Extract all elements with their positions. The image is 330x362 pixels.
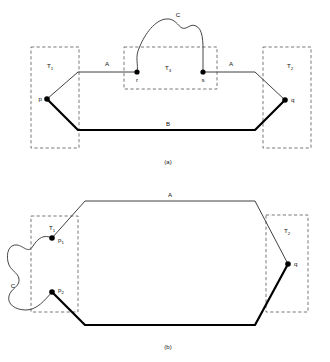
arc-a-right-segment — [203, 72, 285, 100]
node-r-panel-a — [134, 69, 139, 74]
node-q-panel-b — [285, 261, 291, 267]
label-box-t3-panel-a: T3 — [165, 64, 172, 73]
label-box-t1-panel-b: T1 — [49, 224, 56, 233]
figure-container: T1 T3 T2 A A B C p r s q — [0, 0, 330, 362]
label-arc-a-right-panel-a: A — [229, 60, 234, 67]
node-p-panel-a — [44, 96, 50, 102]
label-box-t2-panel-b: T2 — [284, 227, 291, 236]
label-curve-c-panel-a: C — [176, 11, 181, 18]
label-arc-a-panel-b: A — [168, 191, 173, 198]
panel-b: T1 T2 A C p1 p2 q (b) — [7, 191, 308, 350]
label-node-q-panel-b: q — [294, 260, 298, 267]
panel-a: T1 T3 T2 A A B C p r s q — [31, 11, 311, 165]
label-curve-c-panel-b: C — [11, 282, 16, 289]
caption-panel-a: (a) — [164, 159, 171, 165]
label-node-p2-panel-b: p2 — [58, 286, 64, 295]
label-node-r-panel-a: r — [136, 76, 138, 83]
arc-a-panel-b — [52, 201, 288, 264]
label-arc-b-panel-a: B — [166, 120, 170, 127]
curve-c-panel-b — [7, 236, 52, 310]
caption-panel-b: (b) — [164, 344, 171, 350]
label-node-p1-panel-b: p1 — [58, 236, 64, 245]
label-node-s-panel-a: s — [201, 76, 204, 83]
topology-diagram: T1 T3 T2 A A B C p r s q — [0, 0, 330, 362]
node-q-panel-a — [282, 97, 288, 103]
arc-b-panel-b — [52, 264, 288, 325]
label-box-t1-panel-a: T1 — [47, 62, 54, 71]
arc-a-left-segment — [47, 72, 137, 99]
curve-c-panel-a — [137, 19, 203, 72]
node-p2-panel-b — [49, 289, 55, 295]
label-arc-a-left-panel-a: A — [105, 60, 110, 67]
label-node-q-panel-a: q — [291, 96, 295, 103]
label-box-t2-panel-a: T2 — [287, 62, 294, 71]
label-node-p-panel-a: p — [39, 95, 43, 102]
node-p1-panel-b — [49, 235, 55, 241]
node-s-panel-a — [200, 69, 205, 74]
